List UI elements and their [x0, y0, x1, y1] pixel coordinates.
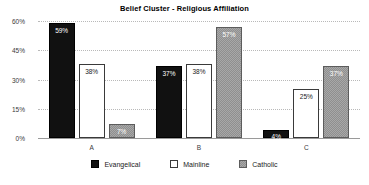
- bar-mainline-a[interactable]: 38%: [79, 64, 105, 138]
- bar-value-label: 37%: [157, 70, 181, 77]
- bar-catholic-a[interactable]: 7%: [109, 124, 135, 138]
- axis-baseline: [38, 138, 360, 140]
- chart-container: Belief Cluster - Religious Affiliation 0…: [0, 0, 369, 185]
- bar-groups: 59%38%7%A37%38%57%B4%25%37%C: [38, 21, 360, 138]
- bar-value-label: 25%: [294, 93, 318, 100]
- bar-value-label: 57%: [217, 31, 241, 38]
- legend-swatch-icon: [239, 160, 247, 168]
- bar-group: 37%38%57%B: [156, 21, 242, 138]
- legend-label: Catholic: [252, 161, 277, 168]
- bar-group: 4%25%37%C: [263, 21, 349, 138]
- chart-legend: EvangelicalMainlineCatholic: [0, 160, 369, 168]
- bar-evangelical-a[interactable]: 59%: [49, 23, 75, 138]
- y-axis-tick-label: 15%: [0, 105, 25, 112]
- chart-title: Belief Cluster - Religious Affiliation: [0, 4, 369, 13]
- plot-area: 0%15%30%45%60% 59%38%7%A37%38%57%B4%25%3…: [38, 21, 360, 138]
- bar-mainline-b[interactable]: 38%: [186, 64, 212, 138]
- legend-swatch-icon: [91, 160, 99, 168]
- bar-value-label: 59%: [50, 27, 74, 34]
- bar-group: 59%38%7%A: [49, 21, 135, 138]
- y-axis-tick-label: 30%: [0, 76, 25, 83]
- x-axis-category-label: B: [156, 144, 242, 151]
- bar-value-label: 4%: [264, 133, 288, 140]
- bar-value-label: 38%: [187, 68, 211, 75]
- legend-item-mainline[interactable]: Mainline: [170, 160, 209, 168]
- bar-mainline-c[interactable]: 25%: [293, 89, 319, 138]
- legend-label: Mainline: [183, 161, 209, 168]
- y-axis-tick-label: 45%: [0, 47, 25, 54]
- legend-swatch-icon: [170, 160, 178, 168]
- bar-evangelical-c[interactable]: 4%: [263, 130, 289, 138]
- bar-evangelical-b[interactable]: 37%: [156, 66, 182, 138]
- bar-catholic-c[interactable]: 37%: [323, 66, 349, 138]
- x-axis-category-label: C: [263, 144, 349, 151]
- y-axis-tick-label: 60%: [0, 18, 25, 25]
- bar-catholic-b[interactable]: 57%: [216, 27, 242, 138]
- bar-value-label: 7%: [110, 128, 134, 135]
- legend-item-catholic[interactable]: Catholic: [239, 160, 277, 168]
- legend-item-evangelical[interactable]: Evangelical: [91, 160, 140, 168]
- bar-value-label: 37%: [324, 70, 348, 77]
- legend-label: Evangelical: [104, 161, 140, 168]
- y-axis-tick-label: 0%: [0, 135, 25, 142]
- x-axis-category-label: A: [49, 144, 135, 151]
- bar-value-label: 38%: [80, 68, 104, 75]
